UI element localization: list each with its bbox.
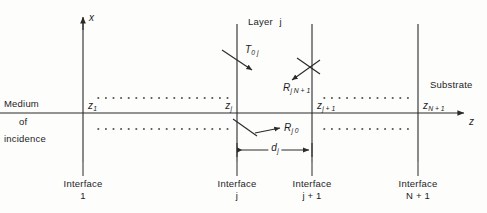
layer-label-index: j	[280, 16, 282, 27]
arrow-reflected-RjN1	[292, 60, 320, 80]
interface-caption-j-plus-1: Interface j + 1	[293, 178, 332, 202]
multilayer-film-diagram: x z Medium of incidence Layer j Substrat…	[0, 0, 487, 213]
coordinate-label-zj: zj	[225, 100, 232, 112]
interface-caption-j-word: Interface	[218, 178, 257, 190]
dj-sub: j	[277, 147, 279, 154]
substrate-label: Substrate	[430, 79, 472, 90]
layer-label-word: Layer	[248, 16, 273, 27]
T0j-sub: 0 j	[251, 49, 258, 56]
arrow-reflected-RjN1-incident	[297, 58, 320, 74]
Rj0-sub: j 0	[291, 127, 298, 134]
z1-sub: 1	[93, 105, 97, 112]
layer-label: Layer j	[248, 16, 282, 27]
medium-of-incidence-line1: Medium	[4, 98, 39, 109]
interface-caption-j: Interface j	[218, 178, 257, 202]
z-axis-label: z	[469, 116, 474, 127]
zj1-sub: j + 1	[322, 105, 335, 112]
field-label-reflected-Rj0: Rj 0	[284, 122, 299, 134]
medium-of-incidence-line2: of	[19, 116, 27, 127]
zj-sub: j	[230, 105, 232, 112]
medium-of-incidence-line3: incidence	[4, 133, 46, 144]
interface-caption-N-plus-1-word: Interface	[399, 178, 438, 190]
field-label-reflected-RjN1: Rj N + 1	[283, 82, 310, 94]
coordinate-label-z1: z1	[88, 100, 97, 112]
zN1-sub: N + 1	[428, 105, 444, 112]
field-label-transmitted-T0j: T0 j	[245, 44, 259, 56]
RjN1-sub: j N + 1	[290, 87, 310, 94]
coordinate-label-zj1: zj + 1	[317, 100, 335, 112]
interface-caption-N-plus-1: Interface N + 1	[399, 178, 438, 202]
interface-caption-j-plus-1-index: j + 1	[293, 190, 332, 202]
interface-caption-1-index: 1	[64, 190, 103, 202]
arrow-reflected-Rj0	[255, 128, 280, 133]
x-axis-label: x	[89, 12, 94, 23]
interface-caption-j-plus-1-word: Interface	[293, 178, 332, 190]
thickness-label-dj: dj	[268, 142, 281, 154]
interface-caption-j-index: j	[218, 190, 257, 202]
interface-caption-1-word: Interface	[64, 178, 103, 190]
interface-caption-1: Interface 1	[64, 178, 103, 202]
coordinate-label-zN1: zN + 1	[423, 100, 445, 112]
dj-base: d	[271, 142, 277, 153]
interface-caption-N-plus-1-index: N + 1	[399, 190, 438, 202]
